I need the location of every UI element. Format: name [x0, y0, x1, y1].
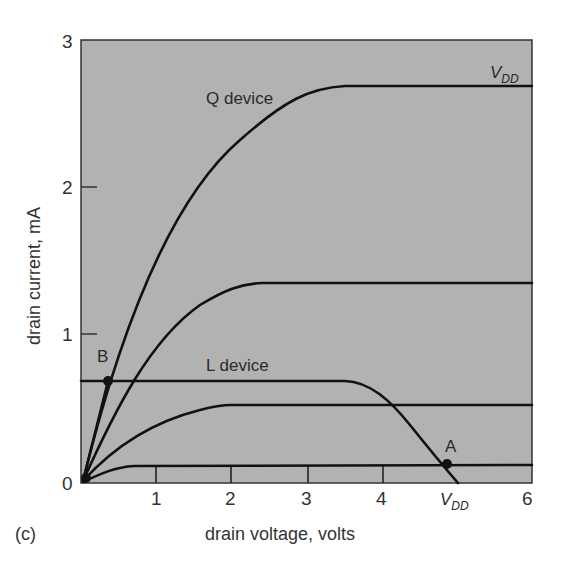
l-device-label: L device [206, 356, 269, 375]
y-tick-0: 0 [62, 473, 73, 494]
point-a-marker [442, 459, 452, 469]
x-tick-6: 6 [522, 488, 533, 509]
y-tick-3: 3 [62, 31, 73, 52]
y-axis-title: drain current, mA [24, 207, 44, 345]
point-b-label: B [97, 347, 108, 366]
q-device-label: Q device [206, 89, 273, 108]
plot-area [81, 40, 532, 483]
y-tick-1: 1 [62, 324, 73, 345]
y-tick-2: 2 [62, 177, 73, 198]
panel-label: (c) [15, 524, 36, 544]
x-tick-3: 3 [301, 488, 312, 509]
point-b-marker [103, 376, 113, 386]
origin-marker [81, 473, 91, 483]
x-tick-2: 2 [225, 488, 236, 509]
x-tick-1: 1 [151, 488, 162, 509]
x-tick-4: 4 [376, 488, 387, 509]
x-axis-title: drain voltage, volts [205, 524, 355, 544]
iv-characteristic-chart: Q device L device B A VDD 3 2 1 0 1 2 3 … [0, 0, 565, 569]
point-a-label: A [445, 437, 457, 456]
x-tick-vdd: VDD [440, 490, 469, 513]
